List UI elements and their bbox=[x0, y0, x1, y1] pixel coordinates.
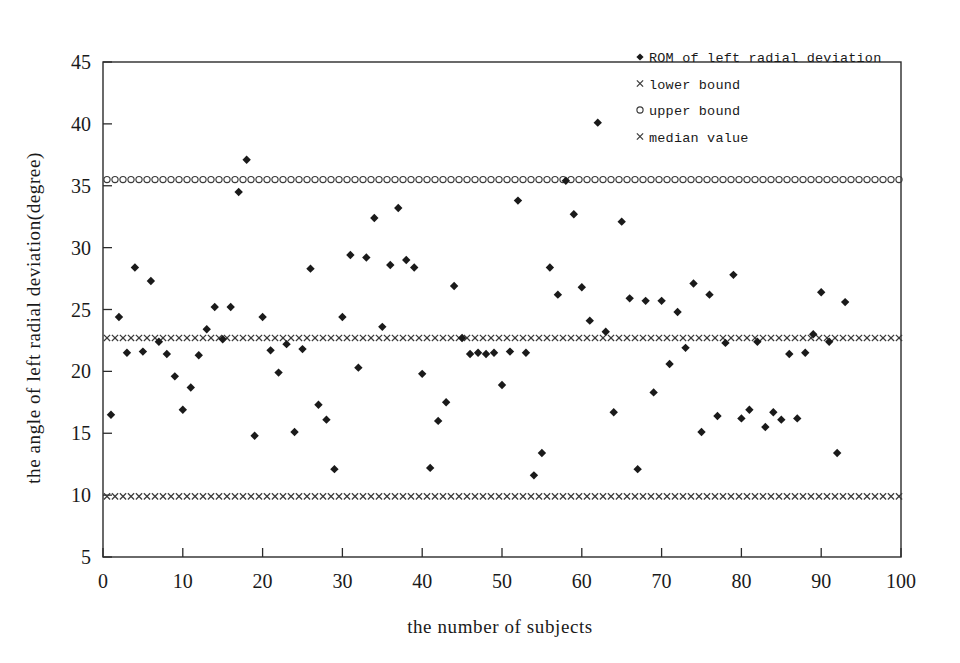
data-point-diamond bbox=[625, 294, 633, 302]
reference-marker-circle bbox=[792, 176, 798, 182]
reference-marker-circle bbox=[712, 176, 718, 182]
reference-marker-x bbox=[216, 493, 222, 499]
y-tick-label: 40 bbox=[71, 113, 91, 135]
data-point-diamond bbox=[226, 303, 234, 311]
reference-marker-x bbox=[568, 493, 574, 499]
data-point-diamond bbox=[123, 349, 131, 357]
data-point-diamond bbox=[418, 370, 426, 378]
data-point-diamond bbox=[602, 328, 610, 336]
reference-marker-x bbox=[128, 493, 134, 499]
x-tick-label: 100 bbox=[886, 570, 916, 592]
reference-marker-circle bbox=[264, 176, 270, 182]
reference-marker-circle bbox=[184, 176, 190, 182]
reference-marker-x bbox=[456, 493, 462, 499]
chart-figure: the angle of left radial deviation(degre… bbox=[0, 0, 960, 663]
reference-marker-x bbox=[536, 335, 542, 341]
reference-marker-circle bbox=[800, 176, 806, 182]
data-point-diamond bbox=[737, 414, 745, 422]
reference-marker-circle bbox=[424, 176, 430, 182]
reference-marker-circle bbox=[488, 176, 494, 182]
data-point-diamond bbox=[258, 313, 266, 321]
reference-marker-circle bbox=[240, 176, 246, 182]
reference-marker-x bbox=[568, 335, 574, 341]
reference-marker-x bbox=[848, 493, 854, 499]
reference-marker-circle bbox=[672, 176, 678, 182]
reference-marker-circle bbox=[608, 176, 614, 182]
legend-item-1: ROM of left radial deviation bbox=[636, 51, 881, 66]
data-point-diamond bbox=[769, 408, 777, 416]
x-tick-label: 90 bbox=[811, 570, 831, 592]
reference-marker-x bbox=[752, 493, 758, 499]
y-tick-label: 45 bbox=[71, 51, 91, 73]
reference-marker-x bbox=[784, 335, 790, 341]
reference-marker-x bbox=[312, 335, 318, 341]
data-point-diamond bbox=[274, 368, 282, 376]
data-point-diamond bbox=[163, 350, 171, 358]
reference-marker-circle bbox=[840, 176, 846, 182]
reference-marker-x bbox=[296, 493, 302, 499]
reference-marker-circle bbox=[664, 176, 670, 182]
reference-marker-circle bbox=[624, 176, 630, 182]
reference-marker-x bbox=[240, 493, 246, 499]
reference-marker-x bbox=[856, 335, 862, 341]
data-point-diamond bbox=[538, 449, 546, 457]
reference-marker-circle bbox=[544, 176, 550, 182]
reference-marker-circle bbox=[648, 176, 654, 182]
legend-item-2: lower bound bbox=[637, 78, 740, 93]
data-point-diamond bbox=[530, 471, 538, 479]
reference-marker-x bbox=[272, 335, 278, 341]
reference-marker-x bbox=[496, 335, 502, 341]
reference-marker-x bbox=[448, 493, 454, 499]
reference-marker-x bbox=[656, 493, 662, 499]
reference-marker-circle bbox=[728, 176, 734, 182]
reference-marker-x bbox=[744, 493, 750, 499]
reference-marker-circle bbox=[472, 176, 478, 182]
data-point-diamond bbox=[171, 372, 179, 380]
reference-marker-circle bbox=[640, 176, 646, 182]
reference-marker-x bbox=[608, 335, 614, 341]
reference-marker-x bbox=[232, 493, 238, 499]
reference-marker-circle bbox=[312, 176, 318, 182]
reference-marker-circle bbox=[528, 176, 534, 182]
reference-marker-x bbox=[840, 493, 846, 499]
data-point-diamond bbox=[402, 256, 410, 264]
reference-marker-x bbox=[328, 335, 334, 341]
reference-marker-x bbox=[600, 335, 606, 341]
reference-marker-x bbox=[192, 493, 198, 499]
data-point-diamond bbox=[266, 346, 274, 354]
reference-marker-x bbox=[240, 335, 246, 341]
reference-marker-x bbox=[488, 493, 494, 499]
reference-marker-x bbox=[400, 335, 406, 341]
reference-marker-x bbox=[128, 335, 134, 341]
reference-marker-x bbox=[688, 335, 694, 341]
reference-marker-circle bbox=[536, 176, 542, 182]
x-tick-label: 30 bbox=[332, 570, 352, 592]
reference-marker-x bbox=[120, 335, 126, 341]
reference-marker-circle bbox=[120, 176, 126, 182]
reference-marker-x bbox=[696, 493, 702, 499]
reference-marker-circle bbox=[704, 176, 710, 182]
reference-marker-x bbox=[184, 493, 190, 499]
data-point-diamond bbox=[195, 351, 203, 359]
reference-marker-circle bbox=[208, 176, 214, 182]
reference-marker-x bbox=[608, 493, 614, 499]
x-tick-label: 50 bbox=[492, 570, 512, 592]
reference-marker-x bbox=[336, 335, 342, 341]
reference-marker-x bbox=[248, 493, 254, 499]
reference-marker-x bbox=[392, 493, 398, 499]
reference-marker-x bbox=[688, 493, 694, 499]
reference-marker-x bbox=[640, 493, 646, 499]
reference-marker-circle bbox=[296, 176, 302, 182]
reference-marker-circle bbox=[824, 176, 830, 182]
data-point-diamond bbox=[386, 261, 394, 269]
y-tick-label: 30 bbox=[71, 237, 91, 259]
reference-marker-x bbox=[704, 493, 710, 499]
reference-marker-circle bbox=[432, 176, 438, 182]
reference-marker-x bbox=[624, 493, 630, 499]
reference-marker-circle bbox=[224, 176, 230, 182]
reference-marker-x bbox=[792, 493, 798, 499]
reference-marker-x bbox=[816, 493, 822, 499]
data-point-diamond bbox=[578, 283, 586, 291]
reference-marker-circle bbox=[776, 176, 782, 182]
reference-marker-circle bbox=[768, 176, 774, 182]
